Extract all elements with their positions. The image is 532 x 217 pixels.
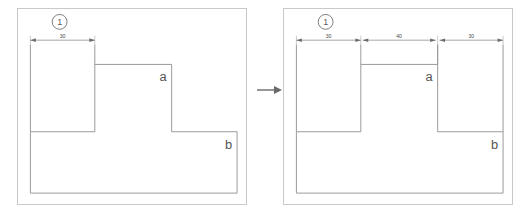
transition-arrow	[255, 80, 285, 100]
panel-left-shape-base	[30, 132, 237, 193]
panel-left-marker-label: 1	[57, 17, 62, 27]
panel-left-shape-upper-left-block	[30, 45, 94, 132]
panel-left-drawing: 1 30 a b	[18, 9, 246, 204]
panel-right-label-a: a	[426, 69, 434, 84]
panel-left-marker: 1	[52, 14, 67, 29]
panel-right-dimension-chain: 30 40 30	[296, 33, 503, 44]
panel-right-dimension-label-1: 30	[326, 33, 332, 39]
panel-left-label-a: a	[160, 69, 168, 84]
panel-right-label-b: b	[491, 137, 498, 152]
dimension-arrow-icon	[430, 38, 435, 42]
dimension-arrow-icon	[363, 38, 368, 42]
panel-left-dimension-label-1: 30	[60, 33, 66, 39]
panel-right-dimension-label-2: 40	[396, 33, 402, 39]
panel-right-marker: 1	[318, 14, 333, 29]
panel-right-marker-label: 1	[323, 17, 328, 27]
panel-left-dimension-30: 30	[30, 33, 94, 44]
panel-right-shape-left-leg	[296, 45, 360, 132]
panel-right-shape-right-leg	[438, 45, 503, 132]
figure-root: 1 30 a b	[0, 0, 532, 217]
dimension-arrow-icon	[440, 38, 445, 42]
panel-right-shape-notch	[361, 45, 438, 65]
dimension-arrow-icon	[296, 38, 301, 42]
panel-right: 1 30 40	[283, 8, 513, 205]
dimension-arrow-icon	[355, 38, 360, 42]
panel-right-drawing: 1 30 40	[284, 9, 512, 204]
panel-left-label-b: b	[225, 137, 232, 152]
right-arrow-icon	[255, 80, 285, 100]
dimension-arrow-right-icon	[89, 38, 94, 42]
panel-left: 1 30 a b	[17, 8, 247, 205]
dimension-arrow-left-icon	[30, 38, 35, 42]
dimension-arrow-icon	[498, 38, 503, 42]
panel-right-dimension-label-3: 30	[468, 33, 474, 39]
panel-right-shape-base	[296, 132, 503, 193]
